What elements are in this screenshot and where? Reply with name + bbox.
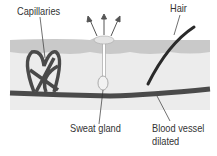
blood-vessel-dilated-label: dilated <box>152 135 179 147</box>
hair-leader <box>174 15 180 35</box>
sweat-gland-icon <box>98 76 108 90</box>
sweat-gland-label: Sweat gland <box>70 122 121 134</box>
blood-vessel-label: Blood vessel <box>152 122 204 134</box>
hair-label: Hair <box>170 2 187 14</box>
evaporation-arrows-icon <box>87 14 120 36</box>
capillaries-label: Capillaries <box>17 5 60 17</box>
sweat-pore-icon <box>94 36 114 44</box>
